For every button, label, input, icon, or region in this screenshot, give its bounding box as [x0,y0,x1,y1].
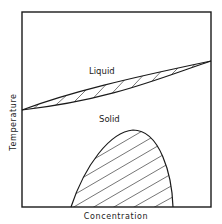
solidus-curve [22,61,211,110]
dome-boundary [71,130,173,207]
solid-region-label: Solid [99,114,120,124]
two-phase-lens [22,56,211,112]
liquidus-curve [22,61,211,110]
miscibility-gap-dome [60,85,180,215]
y-axis-label: Temperature [9,93,18,151]
liquid-region-label: Liquid [89,66,115,76]
plot-frame [22,12,211,207]
x-axis-label: Concentration [84,212,148,221]
phase-diagram: Liquid Solid Concentration Temperature [0,0,222,224]
